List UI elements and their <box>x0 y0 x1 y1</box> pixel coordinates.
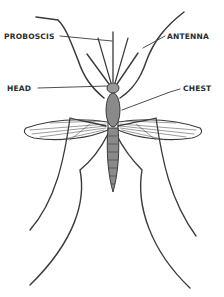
thorax <box>106 93 120 127</box>
front-leg-left <box>36 17 104 98</box>
label-proboscis: PROBOSCIS <box>4 33 55 41</box>
hind-leg-left <box>30 134 108 285</box>
antenna-left <box>87 54 109 84</box>
hind-leg-right <box>116 134 190 288</box>
head <box>107 83 119 93</box>
head-leader <box>38 86 108 88</box>
palp-left <box>98 38 111 83</box>
chest-leader <box>122 89 180 110</box>
middle-leg-right <box>118 118 196 236</box>
front-leg-right <box>120 12 184 98</box>
antenna-right <box>117 53 138 84</box>
proboscis-leader <box>60 36 112 41</box>
mosquito-diagram: PROBOSCIS ANTENNA HEAD CHEST <box>0 0 224 297</box>
label-antenna: ANTENNA <box>167 33 209 41</box>
mosquito-illustration <box>0 0 224 297</box>
label-chest: CHEST <box>183 85 211 93</box>
label-head: HEAD <box>7 85 31 93</box>
